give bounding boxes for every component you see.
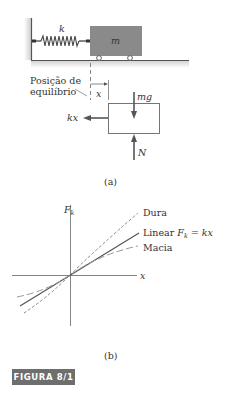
legend-hard: Dura: [143, 207, 167, 218]
equilibrium-label-line1: Posição de: [30, 75, 81, 86]
displacement-label: x: [96, 88, 102, 99]
ground-hatch: [31, 60, 189, 68]
wall-hatch: [24, 18, 31, 60]
spring-icon: [32, 36, 90, 46]
arrow-left-icon: [83, 115, 91, 121]
free-body-diagram: mg kx N: [67, 91, 160, 160]
caption-b: (b): [104, 350, 118, 361]
hard-spring-curve: [24, 213, 138, 313]
spring-mass-system: k m: [24, 18, 189, 68]
figure-canvas: k m Posição de equilíbrio x mg kx N (a): [0, 0, 226, 407]
x-axis-label: x: [140, 270, 146, 281]
normal-label: N: [137, 147, 147, 158]
arrow-up-icon: [131, 134, 137, 142]
spring-constant-label: k: [59, 23, 65, 34]
arrow-head-icon: [104, 82, 108, 85]
legend-linear: Linear Fk = kx: [143, 227, 214, 240]
wheel-icon: [97, 56, 102, 61]
linear-spring-line: [20, 233, 139, 306]
equilibrium-label-line2: equilíbrio: [30, 86, 77, 97]
equilibrium-marker: Posição de equilíbrio x: [30, 63, 109, 100]
wheel-icon: [128, 56, 133, 61]
soft-spring-curve: [17, 246, 138, 297]
figure-label-badge: FIGURA 8/1: [12, 369, 75, 385]
force-displacement-graph: x Fk Dura Linear Fk = kx Macia: [12, 204, 214, 326]
leader-line: [75, 89, 87, 96]
y-axis-label: Fk: [63, 204, 75, 217]
legend-soft: Macia: [143, 242, 173, 253]
spring-force-label: kx: [67, 112, 79, 123]
caption-a: (a): [104, 176, 117, 187]
weight-label: mg: [137, 91, 152, 102]
mass-label: m: [111, 35, 120, 46]
